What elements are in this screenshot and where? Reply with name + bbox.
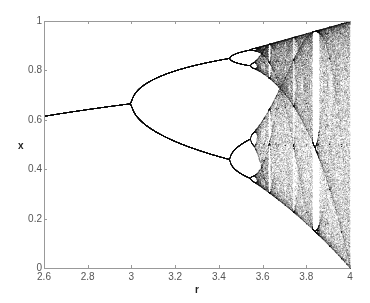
x-tick-label: 3.6	[256, 272, 270, 282]
y-tick-label: 1	[36, 16, 42, 26]
x-tick-label: 4	[347, 272, 353, 282]
y-tick-label: 0	[36, 263, 42, 273]
x-tick-label: 3.2	[168, 272, 182, 282]
y-axis-label: x	[18, 140, 24, 151]
y-tick-label: 0.8	[28, 65, 42, 75]
x-tick-label: 3.4	[212, 272, 226, 282]
bifurcation-figure: 2.6 2.8 3 3.2 3.4 3.6 3.8 4 0 0.2 0.4 0.…	[0, 0, 370, 303]
y-tick-label: 0.2	[28, 214, 42, 224]
x-axis-label: r	[195, 284, 199, 295]
x-tick-label: 3	[129, 272, 135, 282]
x-tick-label: 2.6	[37, 272, 51, 282]
y-tick-label: 0.4	[28, 164, 42, 174]
x-tick-label: 2.8	[81, 272, 95, 282]
x-tick-label: 3.8	[299, 272, 313, 282]
y-tick-label: 0.6	[28, 115, 42, 125]
plot-area	[0, 0, 370, 303]
